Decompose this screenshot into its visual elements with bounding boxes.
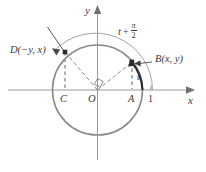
unit-circle-rotation-figure: x y 1 O C A B(x, y) D(−y, x) t t + π 2 [0,0,206,172]
figure-canvas [0,0,206,172]
y-axis-arrowhead [94,5,101,14]
origin-label: O [88,94,96,105]
axes-group [8,5,195,160]
b-label-leader-group [134,60,152,66]
angle-t-plus-half-pi-label: t + π 2 [118,22,137,40]
point-marker-D [63,50,68,55]
point-d-label: D(−y, x) [10,45,46,56]
x-axis-arrowhead [186,86,195,94]
point-b-label: B(x, y) [155,54,183,65]
angle-label-operator: + [123,26,129,37]
angle-label-variable: t [118,26,121,37]
y-axis-label: y [85,5,90,16]
point-a-label: A [128,94,134,105]
point-marker-B [130,60,135,65]
angle-label-denominator: 2 [131,31,137,40]
perpendicular-lines-group [65,52,132,89]
angle-label-fraction: π 2 [131,22,137,40]
angle-t-label: t [137,72,140,82]
rotation-arc-tail-line [48,27,65,52]
radius-to-B [98,62,133,90]
angle-label-numerator: π [131,22,137,31]
radii-group [65,52,132,90]
rotation-arc-arrowhead [52,48,60,55]
point-c-label: C [60,94,67,105]
radius-to-D [65,52,98,90]
x-tick-one-label: 1 [148,94,153,104]
right-angle-square-marker [94,79,103,88]
x-axis-label: x [188,95,193,106]
